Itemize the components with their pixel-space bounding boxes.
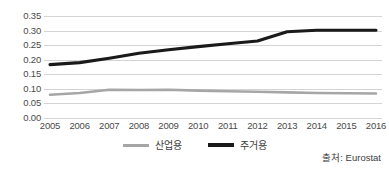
series-layer <box>44 16 382 118</box>
y-axis-tick-label: 0.35 <box>1 11 41 21</box>
series-line <box>50 30 376 64</box>
y-axis-tick-label: 0.15 <box>1 69 41 79</box>
series-line <box>50 90 376 95</box>
y-axis-tick-label: 0.30 <box>1 26 41 36</box>
legend-swatch-residential-icon <box>208 143 234 147</box>
y-axis-tick-label: 0.05 <box>1 98 41 108</box>
y-axis-tick-label: 0.20 <box>1 55 41 65</box>
legend-item-industrial: 산업용 <box>123 140 182 151</box>
x-axis-tick-label: 2016 <box>356 120 389 132</box>
line-chart: 0.000.050.100.150.200.250.300.35 2005200… <box>0 0 389 170</box>
legend-label-industrial: 산업용 <box>155 140 182 151</box>
x-axis: 2005200620072008200920102011201220132014… <box>44 120 382 134</box>
plot-area <box>44 16 382 118</box>
y-axis-tick-label: 0.25 <box>1 40 41 50</box>
legend-item-residential: 주거용 <box>208 140 267 151</box>
y-axis-tick-label: 0.10 <box>1 84 41 94</box>
gridline <box>44 118 382 119</box>
legend-swatch-industrial-icon <box>123 144 149 147</box>
chart-legend: 산업용 주거용 <box>0 137 389 153</box>
legend-label-residential: 주거용 <box>240 140 267 151</box>
source-note: 출처: Eurostat <box>322 152 381 163</box>
